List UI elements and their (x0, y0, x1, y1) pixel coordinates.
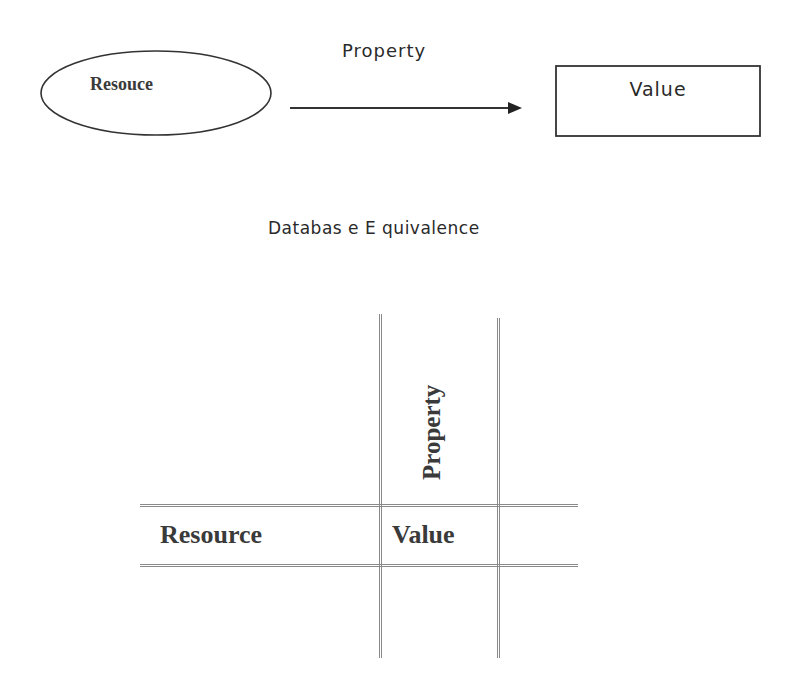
grid-line-horizontal-top (140, 504, 578, 507)
value-label: Value (556, 78, 760, 100)
triple-diagram-graphics (0, 0, 804, 200)
property-label: Property (342, 40, 426, 61)
grid-line-vertical-left (379, 314, 382, 658)
row-header-resource: Resource (160, 520, 262, 550)
value-box (556, 66, 760, 136)
resource-label: Resouce (90, 74, 153, 95)
grid-line-vertical-right (497, 318, 500, 658)
column-header-property: Property (418, 385, 446, 480)
cell-value: Value (392, 520, 455, 550)
grid-line-horizontal-bottom (140, 564, 578, 567)
resource-ellipse (41, 51, 271, 135)
section-title: Databas e E quivalence (268, 218, 480, 238)
arrow-head-icon (508, 102, 522, 114)
